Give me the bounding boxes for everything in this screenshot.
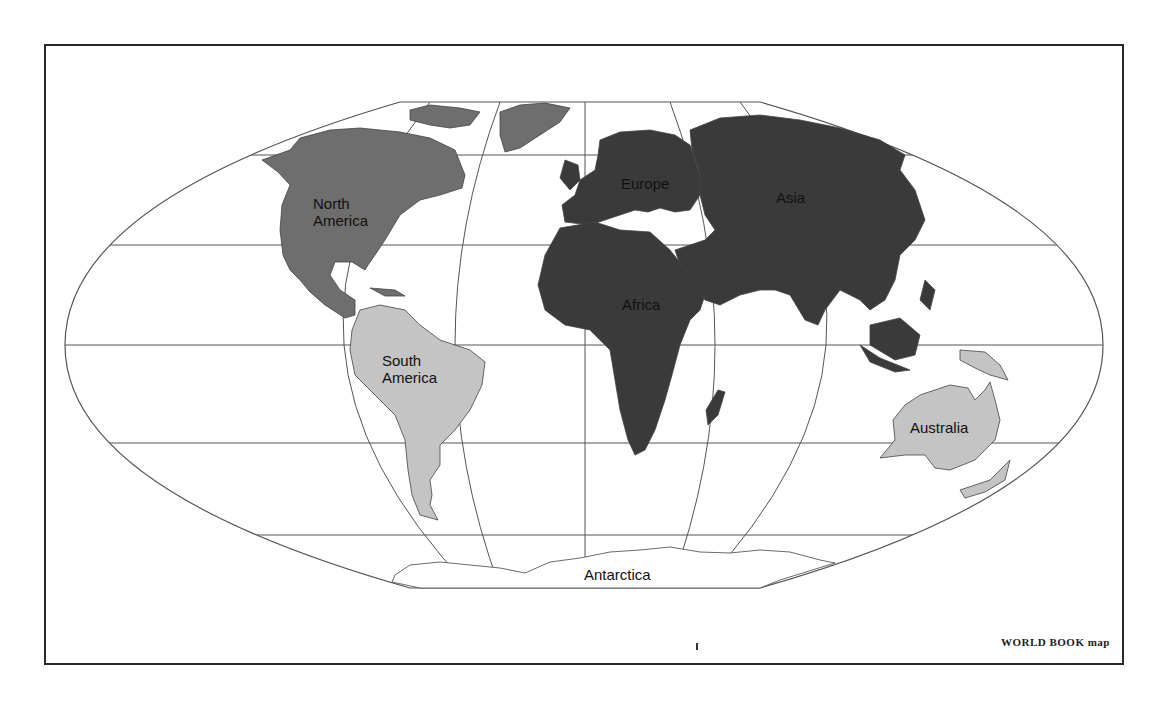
world-map bbox=[0, 0, 1168, 717]
label-north-america: North America bbox=[313, 195, 368, 229]
label-north-america-line1: North bbox=[313, 195, 368, 212]
map-credit: WORLD BOOK map bbox=[1001, 636, 1110, 648]
label-south-america: South America bbox=[382, 352, 437, 386]
label-asia: Asia bbox=[776, 189, 805, 206]
label-south-america-line1: South bbox=[382, 352, 437, 369]
label-africa: Africa bbox=[622, 296, 660, 313]
label-australia: Australia bbox=[910, 419, 968, 436]
label-north-america-line2: America bbox=[313, 212, 368, 229]
scan-mark bbox=[696, 643, 698, 650]
asia-shape bbox=[675, 115, 925, 325]
label-south-america-line2: America bbox=[382, 369, 437, 386]
label-antarctica: Antarctica bbox=[584, 566, 651, 583]
label-europe: Europe bbox=[621, 175, 669, 192]
